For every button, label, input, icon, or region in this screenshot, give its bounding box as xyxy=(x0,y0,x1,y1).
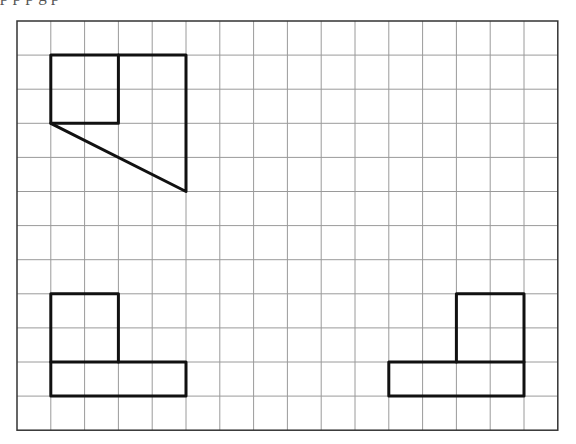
grid-lines xyxy=(17,21,558,430)
grid-diagram xyxy=(0,0,576,444)
